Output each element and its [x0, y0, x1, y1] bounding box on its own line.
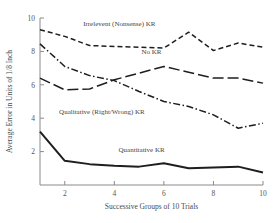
x-tick-label: 10 — [259, 189, 267, 198]
y-tick-label: 4 — [31, 114, 35, 123]
chart-container: 246810246810Successive Groups of 10 Tria… — [0, 0, 278, 223]
y-tick-label: 6 — [31, 81, 35, 90]
x-axis-title: Successive Groups of 10 Trials — [105, 202, 198, 211]
x-tick-label: 4 — [112, 189, 116, 198]
x-tick-label: 6 — [162, 189, 166, 198]
x-tick-label: 8 — [212, 189, 216, 198]
y-tick-label: 10 — [28, 14, 36, 23]
y-axis-title: Average Error in Units of 1/8 Inch — [5, 50, 14, 153]
series-label: Irrelevent (Nonsense) KR — [83, 20, 156, 28]
x-tick-label: 2 — [63, 189, 67, 198]
y-tick-label: 8 — [31, 47, 35, 56]
series-label: Qualitative (Right/Wrong) KR — [59, 108, 145, 116]
series-label: No KR — [141, 48, 161, 56]
y-tick-label: 2 — [31, 147, 35, 156]
series-label: Quantitative KR — [119, 146, 165, 154]
chart-axes — [40, 18, 263, 185]
line-chart: 246810246810Successive Groups of 10 Tria… — [0, 0, 278, 223]
